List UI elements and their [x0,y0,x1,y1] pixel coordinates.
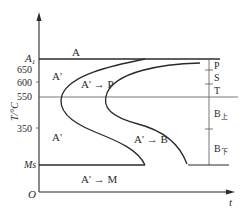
region-undercooled-upper: A' [52,70,62,82]
region-pearlite: A' → P [81,78,114,90]
x-axis-arrow-icon [226,190,235,195]
y-axis-arrow-icon [37,12,42,21]
origin-label: O [28,188,36,200]
y-tick-550: 550 [17,91,32,102]
right-label-t: T [214,85,220,96]
right-label-s: S [214,72,220,83]
x-axis-label: t [229,196,233,208]
y-tick-ms: Ms [23,159,36,170]
right-label-b-upper: B上 [214,108,228,121]
region-bainite: A' → B [134,133,168,145]
region-martensite: A' → M [81,173,117,185]
y-tick-650: 650 [17,64,32,75]
region-undercooled-lower: A' [52,131,62,143]
transformation-start-curve [61,59,145,165]
transformation-finish-curve [105,63,200,164]
right-label-b-lower: B下 [214,143,228,156]
y-tick-350: 350 [17,123,32,134]
right-label-p: P [214,60,220,71]
region-austenite: A [72,46,80,58]
y-axis-label: T/°C [9,102,20,121]
y-tick-600: 600 [17,77,32,88]
ttt-diagram: A1 650 600 550 350 Ms T/°C O t A A' A' →… [0,0,245,211]
